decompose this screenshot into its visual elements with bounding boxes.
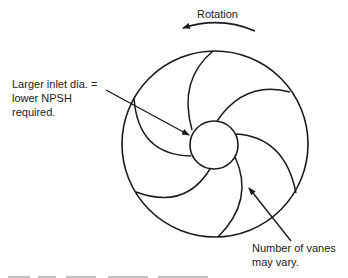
vane-6 (134, 98, 191, 156)
impeller-diagram (0, 0, 348, 278)
vane-4 (218, 157, 242, 237)
inlet-diameter-label: Larger inlet dia. = lower NPSH required. (12, 77, 122, 119)
impeller-drawing (0, 0, 348, 278)
vanes-leader-arrow (249, 188, 291, 241)
vane-2 (217, 89, 290, 121)
figure-caption-clipped (8, 274, 223, 278)
vane-3 (236, 134, 296, 193)
impeller-hub-inlet (190, 121, 238, 169)
vane-1 (188, 51, 213, 130)
vane-5 (136, 169, 210, 197)
rotation-label: Rotation (197, 7, 238, 21)
rotation-arrow (183, 23, 255, 31)
vane-count-label: Number of vanes may vary. (252, 241, 348, 269)
